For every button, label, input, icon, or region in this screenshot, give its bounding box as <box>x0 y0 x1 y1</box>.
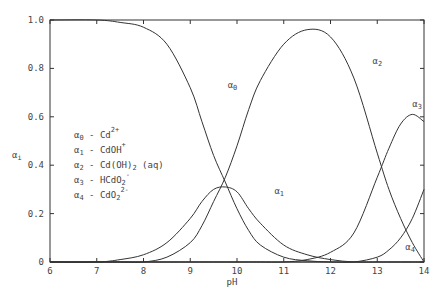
x-tick-label: 13 <box>372 266 383 276</box>
y-tick-label: 0.4 <box>28 160 44 170</box>
x-tick-label: 10 <box>232 266 243 276</box>
legend-item: α4 - CdO22- <box>74 186 129 202</box>
curve-label: α3 <box>412 99 422 111</box>
curves <box>50 20 424 263</box>
plot-frame <box>50 20 424 262</box>
y-tick-label: 0.8 <box>28 63 44 73</box>
y-tick-label: 1.0 <box>28 15 44 25</box>
y-axis-label: αi <box>12 150 22 162</box>
curve-α0 <box>50 20 424 262</box>
legend: α0 - Cd2+α1 - CdOH+α2 - Cd(OH)2 (aq)α3 -… <box>74 126 164 202</box>
curve-label: α0 <box>228 80 238 92</box>
y-tick-label: 0 <box>39 257 44 267</box>
legend-item: α0 - Cd2+ <box>74 126 119 142</box>
x-tick-label: 9 <box>188 266 193 276</box>
curve-label: α1 <box>274 186 284 198</box>
x-tick-label: 7 <box>94 266 99 276</box>
y-tick-label: 0.6 <box>28 112 44 122</box>
y-tick-label: 0.2 <box>28 209 44 219</box>
x-tick-label: 14 <box>419 266 430 276</box>
curve-labels: α0α1α2α3α4 <box>228 56 422 254</box>
curve-label: α4 <box>405 242 415 254</box>
legend-item: α1 - CdOH+ <box>74 141 126 157</box>
legend-item: α3 - HCdO2- <box>74 171 130 187</box>
x-tick-label: 11 <box>278 266 289 276</box>
x-tick-label: 8 <box>141 266 146 276</box>
x-tick-label: 6 <box>47 266 52 276</box>
speciation-chart: 6789101112131400.20.40.60.81.0 α0α1α2α3α… <box>0 0 446 296</box>
x-tick-label: 12 <box>325 266 336 276</box>
legend-item: α2 - Cd(OH)2 (aq) <box>74 160 164 172</box>
x-axis-label: pH <box>227 277 238 287</box>
curve-label: α2 <box>373 56 383 68</box>
